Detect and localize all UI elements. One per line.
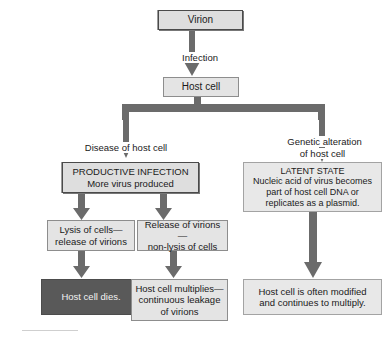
arrow-productive-to-release xyxy=(155,193,173,221)
node-release-of-virions-label: Release of virions— non-lysis of cells xyxy=(138,219,227,253)
node-productive-infection-label: PRODUCTIVE INFECTION More virus produced xyxy=(69,166,191,188)
arrow-release-to-host-cell-multiplies xyxy=(165,251,183,279)
page-rule-artifact xyxy=(22,330,78,331)
node-host-cell-label: Host cell xyxy=(179,81,223,93)
edge-label-genetic-alteration: Genetic alteration of host cell xyxy=(267,125,380,159)
node-lysis-of-cells-label: Lysis of cells— release of virions xyxy=(52,224,130,246)
node-release-of-virions: Release of virions— non-lysis of cells xyxy=(137,220,228,251)
node-virion-label: Virion xyxy=(185,14,216,26)
edge-label-disease-of-host-cell: Disease of host cell xyxy=(63,131,189,154)
node-host-cell-multiplies-label: Host cell multiplies— continuous leakage… xyxy=(132,283,226,317)
node-host-cell-modified: Host cell is often modified and continue… xyxy=(243,279,382,315)
arrow-lysis-to-host-cell-dies xyxy=(73,251,91,279)
virus-infection-flowchart: Virion Infection Host cell Disease of ho… xyxy=(0,0,390,339)
connector-split-bar xyxy=(122,104,325,112)
connector-right-drop xyxy=(318,104,325,120)
node-latent-state: LATENT STATE Nucleic acid of virus becom… xyxy=(243,162,382,212)
node-lysis-of-cells: Lysis of cells— release of virions xyxy=(47,220,135,251)
arrow-productive-to-lysis xyxy=(73,193,91,221)
connector-left-drop xyxy=(122,104,129,120)
node-host-cell-dies-label: Host cell dies. xyxy=(58,291,123,302)
edge-label-infection: Infection xyxy=(157,41,243,64)
node-productive-infection: PRODUCTIVE INFECTION More virus produced xyxy=(62,162,199,193)
node-host-cell: Host cell xyxy=(163,77,239,97)
arrow-latent-to-host-cell-modified xyxy=(303,212,323,279)
node-host-cell-modified-label: Host cell is often modified and continue… xyxy=(255,286,369,308)
node-latent-state-label: LATENT STATE Nucleic acid of virus becom… xyxy=(250,166,375,208)
node-virion: Virion xyxy=(158,10,243,30)
node-host-cell-multiplies: Host cell multiplies— continuous leakage… xyxy=(131,279,228,321)
node-host-cell-dies: Host cell dies. xyxy=(41,279,141,315)
